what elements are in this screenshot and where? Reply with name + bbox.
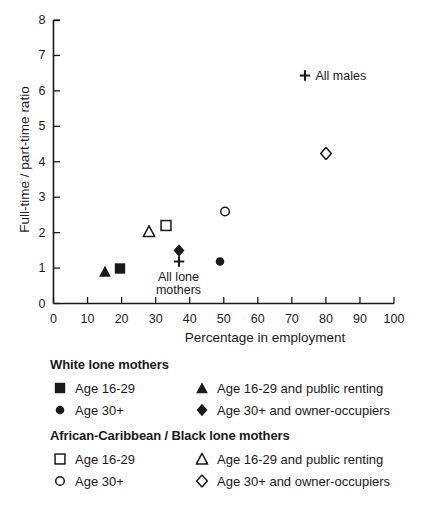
all-lone-mothers-label-line2: mothers bbox=[156, 284, 201, 298]
legend-item-filled-circle[interactable]: Age 30+ bbox=[50, 402, 192, 418]
data-point-white-age-16-29 bbox=[113, 261, 126, 279]
open-triangle-icon bbox=[192, 451, 212, 467]
figure: 0123456780102030405060708090100 All male… bbox=[0, 0, 422, 526]
legend-item-label: Age 30+ bbox=[75, 404, 124, 417]
legend-item-label: Age 16-29 and public renting bbox=[217, 382, 383, 395]
data-point-black-age-16-29-public-renting bbox=[142, 224, 155, 242]
scatter-chart: 0123456780102030405060708090100 All male… bbox=[0, 0, 422, 352]
legend-item-label: Age 16-29 bbox=[75, 453, 135, 466]
legend-item-filled-diamond[interactable]: Age 30+ and owner-occupiers bbox=[192, 402, 422, 418]
legend-item-label: Age 30+ bbox=[75, 475, 124, 488]
open-diamond-icon bbox=[192, 473, 212, 489]
data-point-white-age-16-29-public-renting bbox=[98, 264, 111, 282]
data-point-white-age-30 bbox=[214, 254, 227, 272]
legend-row: Age 16-29Age 16-29 and public renting bbox=[50, 448, 422, 470]
filled-diamond-icon bbox=[192, 402, 212, 418]
all-lone-mothers-label: All lonemothers bbox=[156, 271, 201, 299]
data-point-black-age-16-29 bbox=[159, 218, 172, 236]
y-tick-label: 0 bbox=[8, 298, 46, 311]
legend-heading-white-lone-mothers: White lone mothers bbox=[50, 357, 422, 372]
legend-item-open-triangle[interactable]: Age 16-29 and public renting bbox=[192, 451, 422, 467]
legend-item-open-square[interactable]: Age 16-29 bbox=[50, 451, 192, 467]
x-tick-label: 100 bbox=[374, 313, 414, 326]
data-point-black-age-30-owner-occupiers bbox=[319, 146, 332, 164]
x-tick-marks bbox=[54, 297, 395, 304]
legend-item-open-circle[interactable]: Age 30+ bbox=[50, 473, 192, 489]
legend-group-white-lone-mothers: White lone mothersAge 16-29Age 16-29 and… bbox=[50, 357, 422, 421]
filled-circle-icon bbox=[50, 402, 70, 418]
legend-rows: Age 16-29Age 16-29 and public rentingAge… bbox=[50, 448, 422, 492]
legend-item-label: Age 30+ and owner-occupiers bbox=[217, 404, 390, 417]
open-circle-icon bbox=[50, 473, 70, 489]
open-square-icon bbox=[50, 451, 70, 467]
y-tick-label: 8 bbox=[8, 14, 46, 27]
x-axis-title: Percentage in employment bbox=[130, 330, 400, 345]
filled-square-icon bbox=[50, 380, 70, 396]
legend-item-filled-triangle[interactable]: Age 16-29 and public renting bbox=[192, 380, 422, 396]
legend-item-filled-square[interactable]: Age 16-29 bbox=[50, 380, 192, 396]
legend-group-african-caribbean-black-lone-mothers: African-Caribbean / Black lone mothersAg… bbox=[50, 428, 422, 492]
plot-axes bbox=[0, 0, 422, 352]
y-tick-marks bbox=[54, 20, 61, 304]
legend-item-label: Age 16-29 and public renting bbox=[217, 453, 383, 466]
legend-heading-african-caribbean-black-lone-mothers: African-Caribbean / Black lone mothers bbox=[50, 428, 422, 443]
legend-item-open-diamond[interactable]: Age 30+ and owner-occupiers bbox=[192, 473, 422, 489]
all-males-label: All males bbox=[315, 70, 366, 84]
filled-triangle-icon bbox=[192, 380, 212, 396]
legend-row: Age 30+Age 30+ and owner-occupiers bbox=[50, 399, 422, 421]
legend-item-label: Age 16-29 bbox=[75, 382, 135, 395]
legend-row: Age 30+Age 30+ and owner-occupiers bbox=[50, 470, 422, 492]
legend: White lone mothersAge 16-29Age 16-29 and… bbox=[50, 357, 422, 499]
legend-row: Age 16-29Age 16-29 and public renting bbox=[50, 377, 422, 399]
data-point-black-age-30 bbox=[219, 204, 232, 222]
y-axis-title: Full-time / part-time ratio bbox=[17, 50, 32, 270]
legend-item-label: Age 30+ and owner-occupiers bbox=[217, 475, 390, 488]
legend-rows: Age 16-29Age 16-29 and public rentingAge… bbox=[50, 377, 422, 421]
all-lone-mothers-label-line1: All lone bbox=[156, 271, 201, 285]
data-point-all-males bbox=[299, 68, 312, 86]
